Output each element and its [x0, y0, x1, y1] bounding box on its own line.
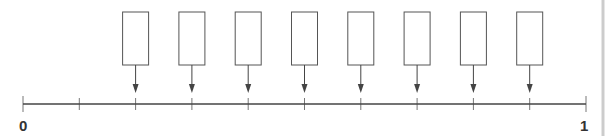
answer-box-group[interactable]: [404, 12, 430, 93]
answer-box[interactable]: [235, 12, 261, 65]
answer-box[interactable]: [348, 12, 374, 65]
number-line-diagram: 0 1: [0, 0, 608, 136]
answer-box[interactable]: [123, 12, 149, 65]
arrow-down-icon: [414, 84, 420, 93]
answer-box-group[interactable]: [460, 12, 486, 93]
arrow-down-icon: [245, 84, 251, 93]
answer-box-group[interactable]: [292, 12, 318, 93]
answer-box-group[interactable]: [348, 12, 374, 93]
answer-box[interactable]: [460, 12, 486, 65]
arrow-down-icon: [133, 84, 139, 93]
answer-box-group[interactable]: [517, 12, 543, 93]
answer-box[interactable]: [292, 12, 318, 65]
axis-end-label: 1: [580, 117, 588, 134]
answer-box-group[interactable]: [123, 12, 149, 93]
answer-box-group[interactable]: [179, 12, 205, 93]
axis-start-label: 0: [19, 117, 27, 134]
arrow-down-icon: [302, 84, 308, 93]
answer-box[interactable]: [404, 12, 430, 65]
arrow-down-icon: [470, 84, 476, 93]
arrow-down-icon: [189, 84, 195, 93]
arrow-down-icon: [358, 84, 364, 93]
answer-box[interactable]: [179, 12, 205, 65]
answer-box[interactable]: [517, 12, 543, 65]
arrow-down-icon: [527, 84, 533, 93]
answer-box-group[interactable]: [235, 12, 261, 93]
answer-boxes: [123, 12, 543, 93]
